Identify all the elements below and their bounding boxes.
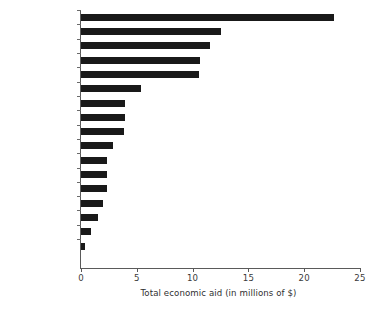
- bar: [81, 28, 221, 35]
- y-axis-tick: [77, 125, 81, 126]
- bar-row: Sweden: [81, 96, 360, 110]
- bar-row: USA: [81, 10, 360, 24]
- y-axis-tick: [77, 168, 81, 169]
- y-axis-tick: [77, 139, 81, 140]
- bar-row: Japan: [81, 39, 360, 53]
- y-axis-tick: [77, 82, 81, 83]
- bar-row: Belgium: [81, 182, 360, 196]
- x-axis-tick: [81, 268, 82, 272]
- y-axis-tick: [77, 67, 81, 68]
- x-axis-tick-label: 25: [340, 273, 377, 283]
- bar-row: Norway: [81, 139, 360, 153]
- y-axis-tick: [77, 225, 81, 226]
- bar-row: Switzerland: [81, 196, 360, 210]
- bar: [81, 142, 113, 149]
- bar-row: Canada: [81, 110, 360, 124]
- y-axis-tick: [77, 153, 81, 154]
- bar-row: New Zealand: [81, 239, 360, 253]
- x-axis-tick-label: 15: [228, 273, 268, 283]
- x-axis-tick: [304, 268, 305, 272]
- bar: [81, 200, 103, 207]
- y-axis-tick: [77, 239, 81, 240]
- bar-row: Finland: [81, 225, 360, 239]
- x-axis-title: Total economic aid (in millions of $): [0, 288, 377, 298]
- bar-row: France: [81, 53, 360, 67]
- y-axis-tick: [77, 53, 81, 54]
- y-axis-tick: [77, 182, 81, 183]
- x-axis-tick-label: 0: [61, 273, 101, 283]
- bar-row: Germany: [81, 67, 360, 81]
- x-axis-tick: [137, 268, 138, 272]
- y-axis-tick: [77, 39, 81, 40]
- y-axis-tick: [77, 96, 81, 97]
- x-axis-tick-label: 10: [173, 273, 213, 283]
- y-axis-tick: [77, 210, 81, 211]
- y-axis-tick: [77, 24, 81, 25]
- bar: [81, 42, 210, 49]
- bar: [81, 100, 125, 107]
- bar: [81, 85, 141, 92]
- bar: [81, 171, 107, 178]
- bar: [81, 243, 85, 250]
- plot-area: USAUnited KingdomJapanFranceGermanyNethe…: [81, 10, 360, 268]
- bar-row: Denmark: [81, 153, 360, 167]
- bar-row: Australia: [81, 168, 360, 182]
- bar: [81, 14, 334, 21]
- bar-chart: USAUnited KingdomJapanFranceGermanyNethe…: [0, 0, 377, 309]
- bar: [81, 57, 200, 64]
- x-axis-line: [80, 268, 361, 269]
- bar-row: Italy: [81, 125, 360, 139]
- bar: [81, 128, 124, 135]
- y-axis-tick: [77, 10, 81, 11]
- bar-row: Netherlands: [81, 82, 360, 96]
- y-axis-tick: [77, 196, 81, 197]
- bar: [81, 71, 199, 78]
- x-axis-tick: [360, 268, 361, 272]
- x-axis-tick-label: 5: [117, 273, 157, 283]
- x-axis-tick: [248, 268, 249, 272]
- x-axis-tick-label: 20: [284, 273, 324, 283]
- bar-row: Austria: [81, 210, 360, 224]
- y-axis-tick: [77, 110, 81, 111]
- bar: [81, 114, 125, 121]
- bar: [81, 185, 107, 192]
- bar: [81, 214, 98, 221]
- x-axis-tick: [193, 268, 194, 272]
- bar-row: United Kingdom: [81, 24, 360, 38]
- bar: [81, 157, 107, 164]
- bar: [81, 228, 91, 235]
